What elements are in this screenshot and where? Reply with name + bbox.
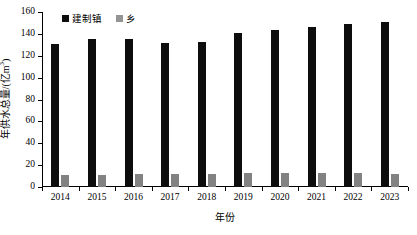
y-tick-label: 40	[26, 139, 36, 149]
legend-swatch-icon	[116, 15, 123, 22]
x-tick-label: 2020	[270, 193, 289, 203]
y-tick-mark	[38, 12, 42, 13]
x-tick-mark	[408, 187, 409, 191]
y-tick-label: 160	[21, 7, 35, 17]
bar	[198, 42, 206, 187]
x-tick-label: 2023	[380, 193, 399, 203]
x-tick-mark	[298, 187, 299, 191]
chart-legend: 建制镇 乡	[62, 14, 136, 24]
bar	[208, 174, 216, 187]
bar	[391, 174, 399, 187]
bar	[381, 22, 389, 187]
x-tick-label: 2017	[161, 193, 180, 203]
y-tick-mark	[38, 100, 42, 101]
legend-item-series-1: 乡	[116, 14, 136, 24]
x-tick-mark	[188, 187, 189, 191]
bar	[135, 174, 143, 187]
x-axis-title: 年份	[215, 213, 235, 223]
bar	[98, 175, 106, 187]
x-tick-mark	[42, 187, 43, 191]
x-tick-label: 2022	[344, 193, 363, 203]
bar	[125, 39, 133, 187]
bar	[344, 24, 352, 187]
y-axis-title-close: )	[0, 59, 11, 62]
y-axis-title: 年供水总量/(亿m3)	[0, 59, 11, 140]
legend-label-series-1: 乡	[126, 14, 136, 24]
y-tick-label: 20	[26, 160, 36, 170]
x-tick-mark	[115, 187, 116, 191]
y-tick-label: 60	[26, 117, 36, 127]
bar	[354, 173, 362, 187]
legend-label-series-0: 建制镇	[72, 14, 102, 24]
x-tick-label: 2019	[234, 193, 253, 203]
bar	[281, 173, 289, 187]
y-tick-label: 140	[21, 29, 35, 39]
bar	[318, 173, 326, 187]
x-tick-mark	[262, 187, 263, 191]
x-tick-label: 2018	[197, 193, 216, 203]
x-tick-label: 2016	[124, 193, 143, 203]
y-tick-label: 100	[21, 73, 35, 83]
y-tick-mark	[38, 143, 42, 144]
bar	[161, 43, 169, 187]
x-tick-label: 2015	[87, 193, 106, 203]
x-tick-label: 2021	[307, 193, 326, 203]
bar	[271, 30, 279, 188]
bar	[234, 33, 242, 187]
y-axis-line	[42, 12, 43, 187]
bar	[51, 44, 59, 187]
y-tick-label: 120	[21, 51, 35, 61]
y-axis-title-main: 年供水总量/(亿m	[0, 65, 11, 139]
bar	[308, 27, 316, 187]
x-tick-mark	[152, 187, 153, 191]
bar-chart: 020406080100120140160 201420152016201720…	[0, 0, 417, 235]
y-axis-title-exponent: 3	[0, 62, 6, 66]
y-tick-label: 80	[26, 95, 36, 105]
y-tick-mark	[38, 34, 42, 35]
y-tick-mark	[38, 121, 42, 122]
y-tick-mark	[38, 56, 42, 57]
plot-area: 020406080100120140160 201420152016201720…	[42, 12, 408, 187]
legend-swatch-icon	[62, 15, 69, 22]
x-tick-label: 2014	[51, 193, 70, 203]
x-tick-mark	[371, 187, 372, 191]
x-tick-mark	[79, 187, 80, 191]
x-tick-mark	[335, 187, 336, 191]
bar	[171, 174, 179, 187]
bar	[88, 39, 96, 187]
legend-item-series-0: 建制镇	[62, 14, 102, 24]
y-tick-label: 0	[30, 182, 35, 192]
y-tick-mark	[38, 78, 42, 79]
bar	[244, 173, 252, 187]
bar	[61, 175, 69, 187]
y-tick-mark	[38, 165, 42, 166]
x-tick-mark	[225, 187, 226, 191]
